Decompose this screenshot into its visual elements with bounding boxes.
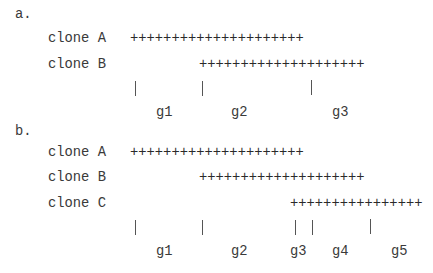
panel-b-tick-1: [135, 220, 136, 235]
panel-b-gene-g5: g5: [391, 244, 408, 260]
panel-b-gene-g1: g1: [156, 244, 173, 260]
panel-a-label: a.: [15, 7, 32, 23]
panel-b-gene-g2: g2: [231, 244, 248, 260]
panel-b-clone-c-coverage: ++++++++++++++++: [290, 196, 422, 212]
panel-a-gene-g1: g1: [156, 105, 173, 121]
panel-b-gene-g3: g3: [290, 244, 307, 260]
panel-b-clone-a-label: clone A: [48, 145, 106, 161]
panel-b-tick-4: [312, 220, 313, 235]
panel-b-clone-c-label: clone C: [48, 196, 106, 212]
panel-b-tick-3: [295, 220, 296, 235]
panel-b-gene-g4: g4: [332, 244, 349, 260]
panel-a-tick-2: [202, 81, 203, 96]
panel-a-tick-3: [311, 80, 312, 95]
panel-a-clone-b-label: clone B: [48, 57, 106, 73]
panel-b-clone-a-coverage: +++++++++++++++++++++: [130, 145, 304, 161]
panel-b-clone-b-label: clone B: [48, 170, 106, 186]
panel-b-label: b.: [15, 124, 32, 140]
panel-a-gene-g3: g3: [332, 105, 349, 121]
panel-a-clone-a-coverage: +++++++++++++++++++++: [130, 31, 304, 47]
panel-b-tick-2: [202, 220, 203, 235]
panel-a-gene-g2: g2: [231, 105, 248, 121]
panel-a-clone-a-label: clone A: [48, 31, 106, 47]
panel-a-clone-b-coverage: ++++++++++++++++++++: [199, 57, 365, 73]
panel-a-tick-1: [135, 81, 136, 96]
panel-b-clone-b-coverage: ++++++++++++++++++++: [199, 170, 365, 186]
panel-b-tick-5: [370, 219, 371, 234]
